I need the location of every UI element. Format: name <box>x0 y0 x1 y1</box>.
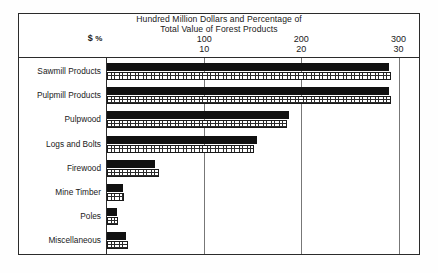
category-label: Firewood <box>21 163 101 173</box>
category-label: Pulpmill Products <box>21 90 101 100</box>
category-label: Poles <box>21 211 101 221</box>
chart-row: Pulpwood <box>107 111 419 131</box>
bar-dollars <box>107 136 257 144</box>
bar-dollars <box>107 160 155 168</box>
axis-tick-20-percent: 20 <box>279 44 323 54</box>
percent-unit-label: % <box>95 34 102 43</box>
bar-dollars <box>107 232 126 240</box>
chart-title-line-2: Total Value of Forest Products <box>19 25 419 35</box>
bar-percent <box>107 169 159 177</box>
bar-dollars <box>107 184 123 192</box>
chart-row: Mine Timber <box>107 184 419 204</box>
category-label: Miscellaneous <box>21 235 101 245</box>
chart-title: Hundred Million Dollars and Percentage o… <box>19 15 419 34</box>
axis-tick-10-percent: 10 <box>182 44 226 54</box>
dollar-unit-label: $ <box>88 33 93 43</box>
bar-percent <box>107 72 391 80</box>
bar-percent <box>107 217 118 225</box>
plot-area: Sawmill ProductsPulpmill ProductsPulpwoo… <box>19 58 419 254</box>
category-label: Logs and Bolts <box>21 139 101 149</box>
bar-percent <box>107 96 391 104</box>
bars-region: Sawmill ProductsPulpmill ProductsPulpwoo… <box>107 58 419 254</box>
bar-dollars <box>107 208 117 216</box>
axis-tick-200-dollars: 200 <box>279 34 323 44</box>
axis-tick-300: 300 30 <box>377 34 421 54</box>
bar-percent <box>107 241 128 249</box>
chart-row: Sawmill Products <box>107 63 419 83</box>
axis-tick-200: 200 20 <box>279 34 323 54</box>
chart-row: Pulpmill Products <box>107 87 419 107</box>
chart-row: Miscellaneous <box>107 232 419 252</box>
chart-row: Poles <box>107 208 419 228</box>
bar-percent <box>107 193 124 201</box>
axis-tick-300-dollars: 300 <box>377 34 421 44</box>
bar-dollars <box>107 111 289 119</box>
category-label: Sawmill Products <box>21 66 101 76</box>
chart-header: Hundred Million Dollars and Percentage o… <box>19 14 419 58</box>
bar-percent <box>107 120 287 128</box>
chart-page: Hundred Million Dollars and Percentage o… <box>0 0 438 273</box>
category-label: Pulpwood <box>21 114 101 124</box>
axis-tick-100: 100 10 <box>182 34 226 54</box>
chart-frame: Hundred Million Dollars and Percentage o… <box>18 13 420 255</box>
chart-row: Logs and Bolts <box>107 136 419 156</box>
axis-unit-markers: $ % <box>81 33 109 44</box>
category-label: Mine Timber <box>21 187 101 197</box>
bar-dollars <box>107 63 389 71</box>
axis-tick-100-dollars: 100 <box>182 34 226 44</box>
axis-tick-30-percent: 30 <box>377 44 421 54</box>
category-label-column <box>19 58 107 254</box>
bar-percent <box>107 145 254 153</box>
chart-row: Firewood <box>107 160 419 180</box>
bar-dollars <box>107 87 389 95</box>
